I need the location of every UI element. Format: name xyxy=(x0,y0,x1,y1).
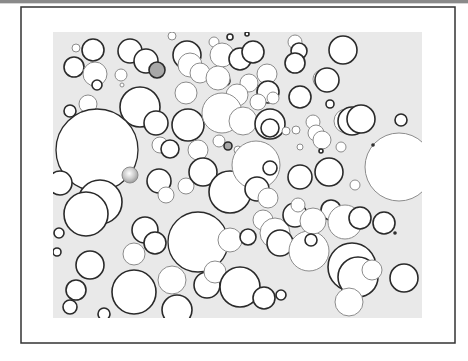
circle xyxy=(64,57,84,77)
circle xyxy=(362,260,382,280)
circle xyxy=(329,36,357,64)
circle xyxy=(395,114,407,126)
circle xyxy=(305,234,317,246)
circle xyxy=(315,158,343,186)
circle xyxy=(172,109,204,141)
circle xyxy=(158,266,186,294)
circle xyxy=(288,165,312,189)
circle xyxy=(292,126,300,134)
circle xyxy=(336,142,346,152)
circle xyxy=(242,41,264,63)
circle xyxy=(263,161,277,175)
circle xyxy=(229,107,257,135)
circle xyxy=(206,66,230,90)
circle xyxy=(300,208,326,234)
circle xyxy=(335,288,363,316)
circle xyxy=(261,119,279,137)
circle xyxy=(349,207,371,229)
circle xyxy=(347,105,375,133)
circle xyxy=(144,232,166,254)
bubble-figure xyxy=(0,0,468,361)
circle xyxy=(372,144,374,146)
circle xyxy=(64,192,108,236)
circle xyxy=(326,100,334,108)
glossy-circle xyxy=(122,167,138,183)
circle xyxy=(175,82,197,104)
gray-circle xyxy=(224,142,232,150)
circle xyxy=(54,228,64,238)
circle xyxy=(213,135,225,147)
circle xyxy=(144,111,168,135)
circle xyxy=(161,140,179,158)
circle xyxy=(168,32,176,40)
circle xyxy=(390,264,418,292)
circle xyxy=(188,140,208,160)
circle xyxy=(115,69,127,81)
circle xyxy=(53,248,61,256)
circle xyxy=(63,300,77,314)
circle xyxy=(253,287,275,309)
circle xyxy=(315,68,339,92)
circle xyxy=(82,39,104,61)
circle xyxy=(227,34,233,40)
circle xyxy=(123,243,145,265)
circle xyxy=(92,80,102,90)
circle xyxy=(319,149,323,153)
circle xyxy=(72,44,80,52)
circle xyxy=(285,53,305,73)
circle xyxy=(289,86,311,108)
circle xyxy=(120,83,124,87)
circle xyxy=(394,232,396,234)
circle xyxy=(350,180,360,190)
circle xyxy=(66,280,86,300)
circle xyxy=(245,32,249,36)
circle xyxy=(158,187,174,203)
circle xyxy=(291,198,305,212)
circle xyxy=(313,131,331,149)
circle xyxy=(258,188,278,208)
gray-circle xyxy=(149,62,165,78)
circle xyxy=(218,228,242,252)
circle xyxy=(373,212,395,234)
circle xyxy=(282,127,290,135)
circle xyxy=(76,251,104,279)
circle xyxy=(240,229,256,245)
circle xyxy=(112,270,156,314)
circle xyxy=(250,94,266,110)
circle xyxy=(267,92,279,104)
circle xyxy=(276,290,286,300)
circle xyxy=(297,144,303,150)
